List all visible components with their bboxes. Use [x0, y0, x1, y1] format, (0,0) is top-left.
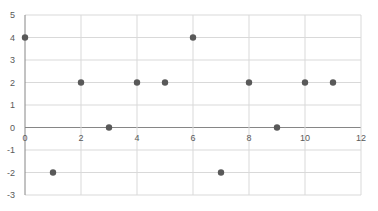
x-tick-label: 10: [300, 133, 310, 143]
x-tick-label: 6: [190, 133, 195, 143]
data-point-marker: [78, 79, 84, 85]
data-point-marker: [134, 79, 140, 85]
x-tick-label: 4: [134, 133, 139, 143]
y-tick-label: 5: [10, 10, 15, 20]
data-point-marker: [218, 169, 224, 175]
y-axis-tick-labels: -3-2-1012345: [7, 10, 15, 200]
gridlines: [25, 15, 361, 195]
scatter-chart: -3-2-1012345 024681012: [0, 0, 378, 211]
data-point-marker: [22, 34, 28, 40]
x-tick-label: 12: [356, 133, 366, 143]
data-point-marker: [302, 79, 308, 85]
y-tick-label: 3: [10, 55, 15, 65]
y-tick-label: -2: [7, 168, 15, 178]
x-tick-label: 8: [246, 133, 251, 143]
y-tick-label: 2: [10, 78, 15, 88]
data-point-marker: [50, 169, 56, 175]
y-tick-label: 0: [10, 123, 15, 133]
y-tick-label: 1: [10, 100, 15, 110]
data-point-marker: [246, 79, 252, 85]
y-tick-label: 4: [10, 33, 15, 43]
data-point-marker: [274, 124, 280, 130]
data-point-marker: [162, 79, 168, 85]
x-tick-label: 0: [22, 133, 27, 143]
x-tick-label: 2: [78, 133, 83, 143]
data-point-marker: [190, 34, 196, 40]
y-tick-label: -1: [7, 145, 15, 155]
data-point-marker: [330, 79, 336, 85]
data-point-marker: [106, 124, 112, 130]
y-tick-label: -3: [7, 190, 15, 200]
x-axis-tick-labels: 024681012: [22, 133, 366, 143]
